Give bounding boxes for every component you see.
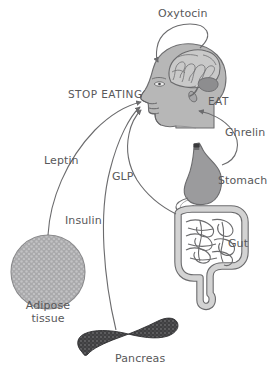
pancreas (78, 318, 178, 355)
label-stomach: Stomach (218, 175, 267, 188)
stomach (176, 143, 222, 212)
label-pancreas: Pancreas (115, 353, 165, 366)
label-stop-eating: STOP EATING (68, 88, 142, 101)
pupil (158, 83, 161, 86)
large-intestine-inner (178, 209, 245, 306)
appetite-regulation-diagram: Oxytocin STOP EATING EAT Ghrelin Stomach… (0, 0, 277, 374)
label-adipose-line2: tissue (8, 313, 88, 326)
insulin-arrow (103, 107, 140, 330)
label-oxytocin: Oxytocin (158, 8, 208, 21)
esophagus-tip (194, 144, 200, 148)
label-eat: EAT (208, 95, 229, 108)
adipose-tissue (11, 235, 85, 309)
cerebellum (198, 78, 218, 92)
gut (178, 209, 245, 306)
label-adipose-line1: Adipose (8, 300, 88, 313)
pancreas-body (78, 318, 178, 355)
label-leptin: Leptin (44, 155, 79, 168)
label-insulin: Insulin (65, 215, 102, 228)
label-gut: Gut (228, 238, 248, 251)
label-ghrelin: Ghrelin (225, 127, 265, 140)
stomach-body (184, 143, 221, 205)
label-glp: GLP (112, 171, 134, 184)
adipose-circle (11, 235, 85, 309)
